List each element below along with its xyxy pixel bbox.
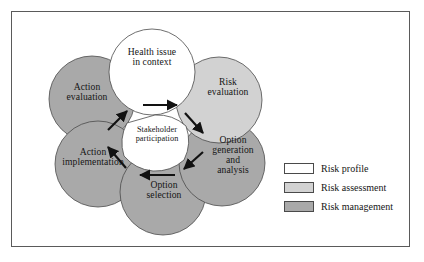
legend-swatch-risk-assessment (284, 182, 314, 193)
legend-label-risk-assessment: Risk assessment (321, 182, 386, 193)
circle-health-issue-in-context (109, 29, 195, 115)
legend-swatch-risk-management (284, 201, 314, 212)
legend-swatch-risk-profile (284, 163, 314, 174)
legend-label-risk-profile: Risk profile (321, 163, 369, 174)
legend-item-risk-assessment: Risk assessment (284, 178, 406, 197)
figure-canvas: Health issue in context Risk evaluation … (0, 0, 424, 262)
legend-item-risk-management: Risk management (284, 197, 406, 216)
legend-label-risk-management: Risk management (321, 201, 393, 212)
legend: Risk profile Risk assessment Risk manage… (284, 159, 406, 216)
venn-cycle-diagram (0, 0, 424, 262)
center-hexagon (122, 115, 189, 171)
legend-item-risk-profile: Risk profile (284, 159, 406, 178)
